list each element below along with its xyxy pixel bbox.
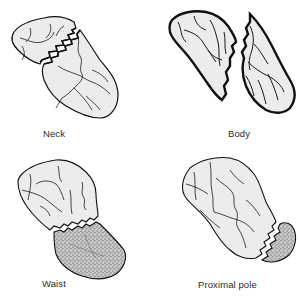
waist-fracture-illustration [0, 150, 149, 299]
panel-label-neck: Neck [43, 128, 65, 139]
avascular-proximal-fragment [54, 222, 126, 279]
body-fracture-illustration [150, 0, 299, 149]
distal-fragment [183, 157, 276, 258]
proximal-pole-fracture-illustration [150, 150, 299, 299]
panel-label-proximal-pole: Proximal pole [198, 279, 257, 290]
neck-fracture-illustration [0, 0, 149, 149]
panel-neck: Neck [0, 0, 149, 149]
panel-waist: Waist [0, 150, 149, 299]
panel-body: Body [150, 0, 299, 149]
panel-label-waist: Waist [42, 278, 66, 289]
distal-fragment [18, 160, 98, 230]
panel-proximal-pole: Proximal pole [150, 150, 299, 299]
panel-label-body: Body [228, 128, 250, 139]
